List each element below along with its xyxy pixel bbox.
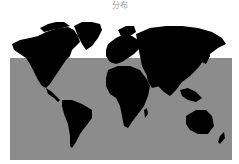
europe (106, 34, 140, 64)
africa (106, 66, 150, 128)
greenland (74, 22, 102, 50)
australia (186, 110, 214, 134)
southeast-asia (180, 88, 202, 102)
south-america (62, 100, 92, 148)
central-america (46, 88, 60, 102)
new-zealand (218, 132, 225, 144)
madagascar (144, 108, 148, 118)
world-map (0, 0, 239, 164)
north-america (12, 27, 80, 88)
